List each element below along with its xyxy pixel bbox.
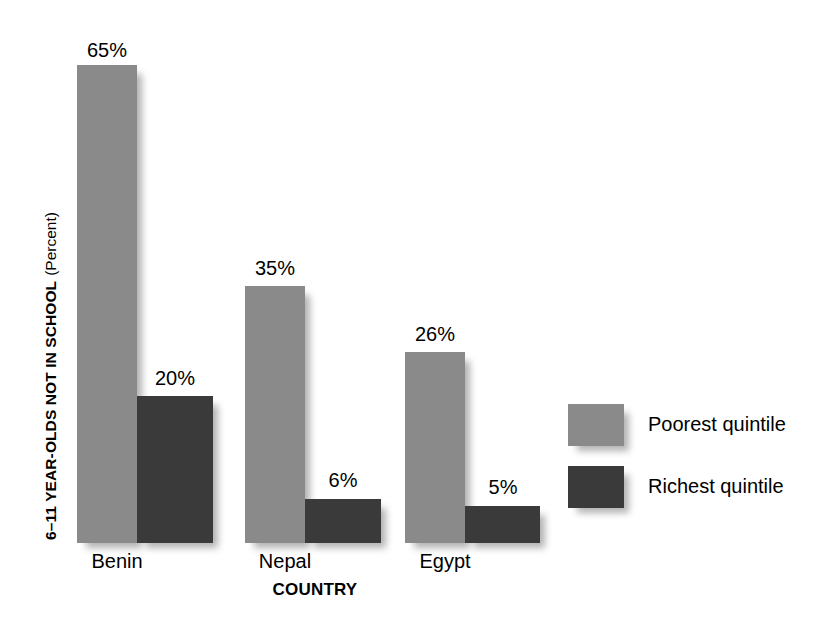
category-label-egypt: Egypt [385, 551, 505, 571]
bar-benin-poorest [77, 65, 137, 543]
bar-egypt-richest [465, 506, 540, 543]
bar-nepal-poorest [245, 286, 305, 543]
category-label-nepal: Nepal [225, 551, 345, 571]
bar-nepal-richest [305, 499, 381, 543]
category-label-benin: Benin [57, 551, 177, 571]
bar-egypt-poorest [405, 352, 465, 543]
bar-benin-richest [137, 396, 213, 543]
plot-area: 65% 20% Benin 35% 6% Nepal 26% 5% Egypt [0, 0, 838, 624]
x-axis-title: COUNTRY [245, 581, 385, 598]
bar-value-nepal-richest: 6% [293, 470, 393, 490]
legend-swatch-richest-icon [568, 466, 624, 508]
bar-value-benin-poorest: 65% [57, 40, 157, 60]
bar-value-benin-richest: 20% [125, 368, 225, 388]
legend-label-poorest: Poorest quintile [648, 414, 786, 434]
bar-value-nepal-poorest: 35% [225, 258, 325, 278]
bar-value-egypt-poorest: 26% [385, 324, 485, 344]
legend-label-richest: Richest quintile [648, 476, 784, 496]
legend-swatch-poorest-icon [568, 404, 624, 446]
bar-value-egypt-richest: 5% [453, 477, 553, 497]
bar-chart: 6–11 YEAR-OLDS NOT IN SCHOOL (Percent) 6… [0, 0, 838, 624]
